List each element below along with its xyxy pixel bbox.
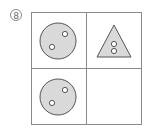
dot <box>49 100 54 105</box>
cell-bottom-right-empty[interactable] <box>87 69 141 124</box>
dot <box>62 31 67 36</box>
dot <box>49 44 54 49</box>
dot <box>111 41 116 46</box>
cell-bottom-left-circle <box>40 79 76 115</box>
dot <box>62 87 67 92</box>
cell-top-left-circle <box>40 23 76 59</box>
dot <box>111 48 116 53</box>
cell-top-right-triangle <box>97 25 131 57</box>
shape-grid <box>0 0 150 128</box>
